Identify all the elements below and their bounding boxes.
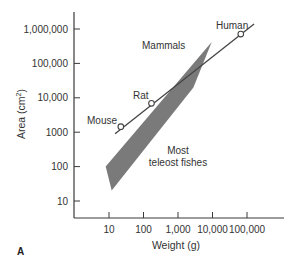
x-tick-label: 10,000 bbox=[197, 224, 228, 235]
y-tick-label: 1000 bbox=[46, 127, 69, 138]
fish-label-line1: Most bbox=[167, 145, 189, 156]
x-tick-label: 10 bbox=[103, 224, 115, 235]
mammals-label: Mammals bbox=[142, 40, 185, 51]
x-tick-label: 100 bbox=[135, 224, 152, 235]
fish-label-line2: teleost fishes bbox=[149, 157, 207, 168]
human-label: Human bbox=[216, 20, 248, 31]
y-tick-label: 10 bbox=[57, 196, 69, 207]
y-ticks: 10100100010,000100,0001,000,000 bbox=[24, 24, 81, 207]
y-tick-label: 100,000 bbox=[32, 58, 69, 69]
y-tick-label: 100 bbox=[51, 161, 68, 172]
y-tick-label: 1,000,000 bbox=[24, 24, 69, 35]
data-point-mouse bbox=[118, 124, 124, 130]
x-ticks: 101001,00010,000100,000 bbox=[103, 212, 265, 235]
x-tick-label: 1,000 bbox=[165, 224, 190, 235]
y-axis-title: Area (cm2) bbox=[15, 89, 27, 139]
panel-label: A bbox=[17, 246, 24, 257]
x-axis-title: Weight (g) bbox=[152, 239, 200, 251]
y-tick-label: 10,000 bbox=[37, 92, 68, 103]
chart-figure: 10100100010,000100,0001,000,000 101001,0… bbox=[0, 0, 298, 267]
data-point-human bbox=[238, 31, 244, 37]
mouse-label: Mouse bbox=[87, 115, 117, 126]
x-tick-label: 100,000 bbox=[229, 224, 266, 235]
rat-label: Rat bbox=[133, 90, 149, 101]
data-point-rat bbox=[149, 101, 155, 107]
teleost-fish-region bbox=[106, 42, 212, 191]
